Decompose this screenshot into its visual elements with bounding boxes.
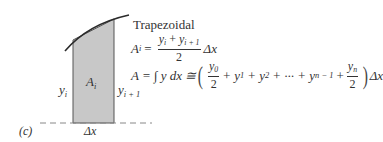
trapezoid-area bbox=[73, 19, 114, 123]
panel-label: (c) bbox=[19, 125, 32, 137]
method-title: Trapezoidal bbox=[133, 18, 195, 31]
fraction-yn: yn 2 bbox=[347, 60, 358, 91]
left-height-label: yi bbox=[59, 83, 67, 98]
total-area-equation: A = ∫ y dx ≅ ( y0 2 + y1 + y2 + ··· + yn… bbox=[131, 60, 383, 91]
fraction-y0: y0 2 bbox=[208, 60, 219, 91]
area-label: Ai bbox=[86, 75, 96, 90]
width-label: Δx bbox=[84, 125, 96, 137]
